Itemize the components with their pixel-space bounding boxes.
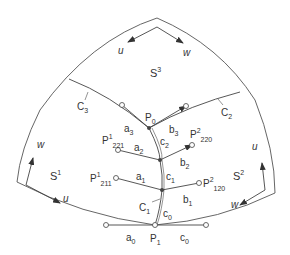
vector-label-a3: a3 — [124, 123, 134, 136]
patch-boundary-curves — [69, 79, 240, 225]
point-label-p220: P2220 — [190, 127, 212, 143]
point-label-p211: P1211 — [90, 171, 112, 187]
vector-label-b1: b1 — [183, 194, 193, 207]
control-points — [104, 103, 209, 228]
control-vectors — [106, 105, 206, 225]
patch-label-s3: S3 — [150, 66, 161, 79]
axis-label-left-u: u — [63, 193, 69, 204]
axis-label-top-u: u — [118, 45, 124, 56]
curve-label-c3: C3 — [77, 101, 88, 114]
patch-label-s1: S1 — [50, 169, 61, 182]
curve-label-c2: C2 — [221, 107, 232, 120]
point-label-p120: P2120 — [203, 176, 225, 192]
vector-label-a2: a2 — [134, 142, 144, 155]
point-label-p0: P0 — [145, 112, 156, 125]
vector-label-c1: c1 — [166, 171, 175, 184]
axis-label-top-w: w — [183, 47, 191, 58]
axis-label-right-u: u — [252, 141, 258, 152]
axis-label-left-w: w — [37, 139, 45, 150]
vector-label-c2: c2 — [160, 136, 169, 149]
triangular-patch-diagram: S3 S1 S2 u w w u u w C3 C2 C1 P0 P1 P122… — [0, 0, 290, 255]
point-label-p221: P1221 — [102, 133, 124, 149]
vector-label-c0-upper: c0 — [163, 208, 172, 221]
point-label-p1: P1 — [150, 233, 161, 246]
curve-label-c1: C1 — [139, 202, 150, 215]
vector-label-a0: a0 — [126, 232, 136, 245]
axis-label-right-w: w — [231, 199, 239, 210]
vector-label-a1: a1 — [136, 171, 146, 184]
vector-label-b3: b3 — [169, 124, 179, 137]
vector-label-c0-lower: c0 — [180, 232, 189, 245]
patch-label-s2: S2 — [233, 169, 244, 182]
vector-label-b2: b2 — [180, 157, 190, 170]
